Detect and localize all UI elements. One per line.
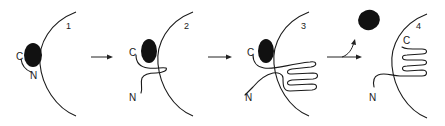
n-terminus-label: N: [369, 92, 376, 103]
n-terminus-label: N: [245, 92, 252, 103]
polypeptide-chain: [373, 47, 426, 87]
panel-number: 3: [301, 21, 306, 31]
panel-4: 4 C N: [369, 14, 427, 118]
c-terminus-label: C: [403, 35, 410, 46]
chaperone-blob: [141, 39, 157, 63]
panel-number: 1: [66, 21, 71, 31]
panel-1: 1 C N: [16, 12, 76, 116]
step-arrow-3-4: [327, 39, 362, 60]
c-terminus-label: C: [16, 51, 23, 62]
panel-3: 3 C N: [245, 12, 318, 116]
c-terminus-label: C: [129, 47, 136, 58]
released-chaperone-blob: [355, 7, 383, 33]
translocation-diagram: 1 C N 2 C N 3 C N: [0, 0, 445, 126]
step-arrow-1-2: [91, 55, 113, 60]
n-terminus-label: N: [129, 92, 136, 103]
panel-number: 4: [416, 21, 421, 31]
step-arrow-2-3: [208, 55, 232, 60]
chaperone-blob: [258, 39, 274, 63]
n-terminus-label: N: [30, 70, 37, 81]
chaperone-blob: [24, 43, 42, 67]
release-branch-arrow: [342, 42, 354, 57]
panel-2: 2 C N: [129, 12, 193, 116]
panel-number: 2: [184, 21, 189, 31]
c-terminus-label: C: [247, 47, 254, 58]
